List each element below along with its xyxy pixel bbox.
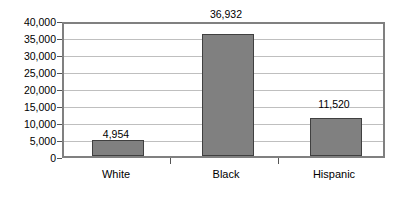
bar-chart: 40,000 35,000 30,000 25,000 20,000 15,00…: [0, 0, 399, 197]
y-tick-label: 25,000: [0, 68, 56, 79]
data-label-black: 36,932: [210, 8, 242, 20]
y-tick-label: 35,000: [0, 34, 56, 45]
bar-black[interactable]: [202, 34, 254, 156]
y-tick-label: 5,000: [0, 136, 56, 147]
y-tick-label: 40,000: [0, 17, 56, 28]
y-tick-label: 0: [0, 153, 56, 164]
y-tick-label: 30,000: [0, 51, 56, 62]
x-tick-mark: [278, 158, 279, 164]
bar-white[interactable]: [92, 140, 144, 156]
y-tick-label: 15,000: [0, 102, 56, 113]
bar-hispanic[interactable]: [310, 118, 362, 156]
y-tick-label: 20,000: [0, 85, 56, 96]
y-axis: 40,000 35,000 30,000 25,000 20,000 15,00…: [0, 22, 56, 158]
data-label-hispanic: 11,520: [318, 98, 349, 110]
y-tick-label: 10,000: [0, 119, 56, 130]
category-label-black: Black: [213, 168, 240, 180]
category-label-hispanic: Hispanic: [313, 168, 355, 180]
data-label-white: 4,954: [103, 128, 129, 140]
x-tick-mark: [170, 158, 171, 164]
category-label-white: White: [102, 168, 130, 180]
y-tick-mark: [57, 158, 62, 159]
